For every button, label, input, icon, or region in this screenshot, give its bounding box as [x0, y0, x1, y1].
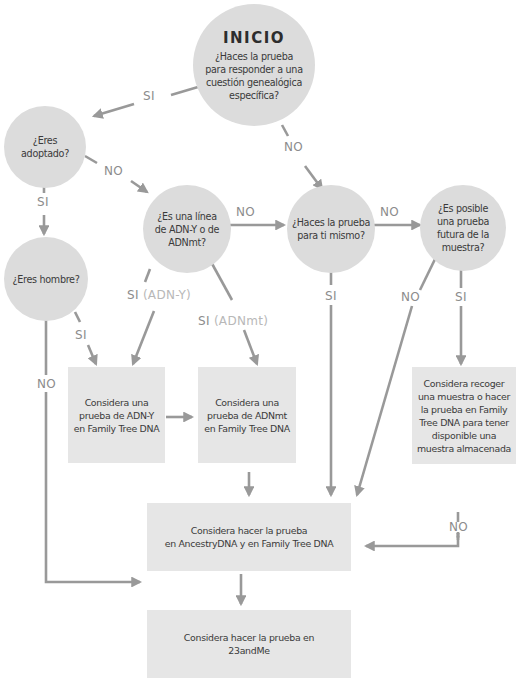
adopted-node: ¿Eres adoptado? — [4, 106, 86, 188]
male-node: ¿Eres hombre? — [4, 237, 88, 321]
mtdna-box: Considera una prueba de ADNmt en Family … — [198, 367, 296, 463]
label-lineage-si-mt-main: SI — [198, 314, 210, 328]
ancestry-text: Considera hacer la prueba en AncestryDNA… — [165, 524, 334, 550]
arrow-lineage-to-ydna — [145, 269, 150, 282]
label-self-no: NO — [380, 205, 399, 219]
self-question: ¿Haces la prueba para ti mismo? — [292, 216, 370, 242]
label-store-no: NO — [449, 520, 468, 534]
label-lineage-si-mt-sub: (ADNmt) — [214, 314, 268, 328]
self-node: ¿Haces la prueba para ti mismo? — [287, 185, 375, 273]
label-lineage-no: NO — [236, 205, 255, 219]
mtdna-text: Considera una prueba de ADNmt en Family … — [204, 396, 290, 435]
ancestry-box: Considera hacer la prueba en AncestryDNA… — [147, 503, 351, 571]
label-adopted-si: SI — [37, 195, 49, 209]
label-future-si: SI — [455, 290, 467, 304]
label-lineage-si-y: SI (ADN-Y) — [127, 288, 191, 302]
label-start-si: SI — [143, 89, 155, 103]
arrow-male-to-ydna — [75, 312, 80, 322]
start-question: ¿Haces la prueba para responder a una cu… — [205, 50, 302, 102]
future-question: ¿Es posible una prueba futura de la mues… — [437, 202, 489, 254]
label-lineage-si-y-sub: (ADN-Y) — [143, 288, 191, 302]
male-question: ¿Eres hombre? — [12, 273, 79, 286]
lineage-node: ¿Es una línea de ADN-Y o de ADNmt? — [143, 185, 231, 273]
arrow-adopted-to-lineage — [85, 156, 97, 163]
arrow-lineage-to-mtdna — [210, 260, 232, 300]
label-self-si: SI — [325, 289, 337, 303]
23andme-box: Considera hacer la prueba en 23andMe — [147, 610, 351, 678]
start-node: INICIO ¿Haces la prueba para responder a… — [193, 4, 315, 126]
start-title: INICIO — [223, 29, 285, 47]
label-male-no: NO — [37, 377, 56, 391]
store-box: Considera recoger una muestra o hacer la… — [412, 367, 516, 464]
arrow-start-to-adopted — [171, 87, 198, 95]
future-node: ¿Es posible una prueba futura de la mues… — [420, 185, 506, 271]
ydna-box: Considera una prueba de ADN-Y en Family … — [68, 367, 165, 463]
label-lineage-si-mt: SI (ADNmt) — [198, 314, 268, 328]
label-start-no: NO — [284, 140, 303, 154]
label-lineage-si-y-main: SI — [127, 288, 139, 302]
lineage-question: ¿Es una línea de ADN-Y o de ADNmt? — [155, 210, 219, 249]
label-future-no: NO — [401, 290, 420, 304]
ydna-text: Considera una prueba de ADN-Y en Family … — [74, 396, 160, 435]
store-text: Considera recoger una muestra o hacer la… — [417, 377, 511, 455]
arrow-start-to-self — [282, 125, 288, 136]
label-adopted-no: NO — [104, 164, 123, 178]
adopted-question: ¿Eres adoptado? — [21, 134, 69, 160]
23andme-text: Considera hacer la prueba en 23andMe — [184, 631, 314, 657]
label-male-si: SI — [75, 328, 87, 342]
